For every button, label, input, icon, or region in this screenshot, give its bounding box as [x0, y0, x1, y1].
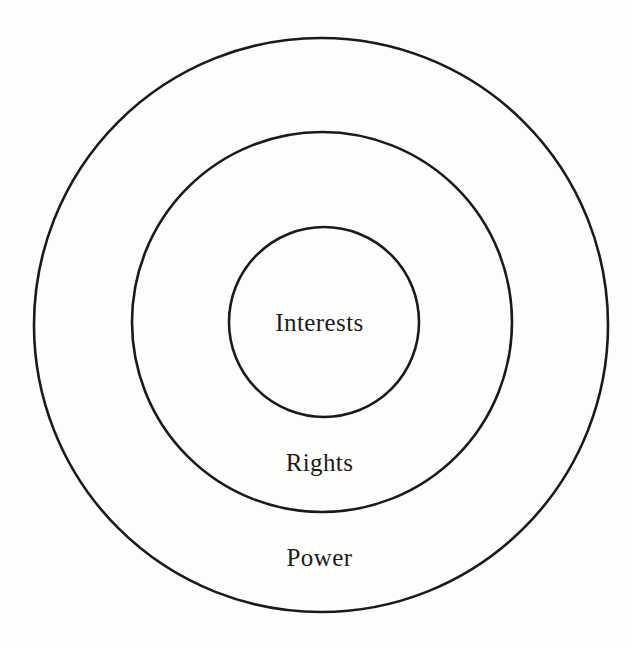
- ring-label-interests: Interests: [3, 310, 633, 335]
- ring-label-rights: Rights: [3, 450, 633, 475]
- ring-label-power: Power: [3, 545, 633, 570]
- concentric-circles-diagram: Interests Rights Power: [0, 0, 633, 647]
